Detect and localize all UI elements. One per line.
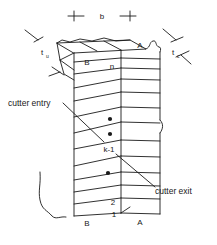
face-label-a-top: A [137,41,143,50]
continuation-dot [108,132,112,136]
side-face-layer-lines [121,58,160,199]
face-label-b-bottom: B [84,219,89,228]
dimension-b-label: b [100,12,105,21]
tu-base: t [41,48,44,57]
left-break-line [39,172,66,218]
cutter-entry-label: cutter entry [8,98,51,108]
layer-label-k-minus-1: k-1 [103,145,115,154]
layer-label-2: 2 [111,198,116,207]
figure-container: b t u t c B B A A n k-1 2 1 cutter entry… [0,0,217,245]
diagram-canvas: b t u t c B B A A n k-1 2 1 cutter entry… [0,0,217,245]
front-face-layer-lines [74,58,121,204]
continuation-dot [108,117,112,121]
cutter-exit-leader [116,154,155,187]
face-label-a-bottom: A [137,218,143,227]
block-bottom-edges [74,207,160,216]
cutter-exit-label: cutter exit [155,186,192,196]
tu-subscript: u [46,53,49,59]
top-right-break-curve [146,41,161,52]
tc-subscript: c [177,53,180,59]
cutter-entry-leader [63,103,104,142]
upper-left-oblique-lines [57,43,74,80]
tu-label: t u [41,48,49,59]
layer-label-1: 1 [112,210,117,219]
tc-base: t [172,48,175,57]
face-label-b-top: B [84,58,89,67]
continuation-dot [106,171,110,175]
layer-label-n: n [110,62,114,71]
tu-leader-lines [25,30,64,76]
